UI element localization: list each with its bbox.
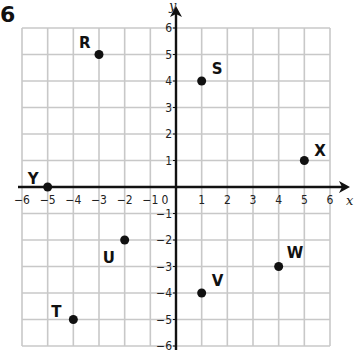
y-tick-label: −1 — [156, 207, 172, 221]
point-label-y: Y — [27, 170, 40, 188]
point-v — [197, 289, 206, 298]
y-tick-label: 2 — [165, 127, 172, 141]
point-label-x: X — [314, 142, 326, 160]
point-label-v: V — [212, 272, 224, 290]
x-tick-label: 2 — [224, 193, 231, 207]
point-t — [69, 315, 78, 324]
y-tick-label: −3 — [156, 260, 172, 274]
point-u — [120, 236, 129, 245]
x-axis-label: x — [346, 193, 354, 208]
x-tick-label: 5 — [301, 193, 308, 207]
x-tick-label: −2 — [117, 193, 133, 207]
x-tick-label: −1 — [142, 193, 158, 207]
y-tick-label: 6 — [165, 21, 172, 35]
point-label-w: W — [287, 244, 304, 262]
y-tick-label: −4 — [156, 286, 172, 300]
point-label-u: U — [103, 249, 115, 267]
y-tick-label: 4 — [165, 74, 172, 88]
x-tick-label: 4 — [275, 193, 282, 207]
coordinate-plane: xy −6−5−4−3−2−1123456654321−1−2−3−4−5−60… — [0, 0, 354, 360]
x-tick-label: −6 — [14, 193, 30, 207]
x-tick-label: −3 — [91, 193, 107, 207]
point-x — [300, 156, 309, 165]
y-tick-label: 1 — [165, 154, 172, 168]
point-label-t: T — [51, 303, 62, 321]
x-tick-label: 3 — [250, 193, 257, 207]
point-label-r: R — [79, 34, 91, 52]
y-tick-label: −2 — [156, 233, 172, 247]
point-s — [197, 77, 206, 86]
x-tick-label: 1 — [198, 193, 205, 207]
point-label-s: S — [212, 60, 223, 78]
y-axis-label: y — [168, 0, 177, 13]
point-y — [43, 183, 52, 192]
x-tick-label: −4 — [65, 193, 81, 207]
x-tick-label: −5 — [40, 193, 56, 207]
y-tick-label: 3 — [165, 101, 172, 115]
y-tick-label: 5 — [165, 48, 172, 62]
x-tick-label: 6 — [327, 193, 334, 207]
point-r — [95, 50, 104, 59]
y-tick-label: −5 — [156, 313, 172, 327]
y-tick-label: −6 — [156, 339, 172, 353]
point-w — [274, 262, 283, 271]
origin-label: 0 — [162, 193, 169, 207]
